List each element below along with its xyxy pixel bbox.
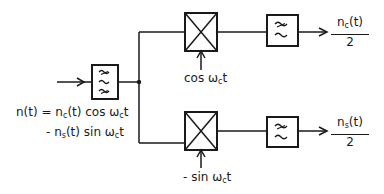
lowpass-tilde-icon [275,124,287,139]
top-output-denominator: 2 [331,35,369,49]
input-signal-label-line1: n(t) = nc(t) cos ωct [16,106,128,122]
bandpass-filter-box [92,65,118,99]
bottom-output-denominator: 2 [331,135,369,149]
bottom-output-label: ns(t) 2 [331,116,369,149]
top-output-label: nc(t) 2 [331,16,369,49]
bottom-output-numerator: ns(t) [331,116,369,135]
bandpass-tilde-icon [99,71,109,94]
bottom-lowpass-box [267,117,298,147]
top-oscillator-label: cos ωct [184,72,227,88]
top-lowpass-box [267,15,298,46]
junction-dot [137,80,141,84]
block-diagram [0,0,384,194]
bottom-oscillator-label: - sin ωct [183,171,231,187]
input-signal-label-line2: - ns(t) sin ωct [46,126,124,142]
lowpass-tilde-icon [275,22,287,37]
top-output-numerator: nc(t) [331,16,369,35]
